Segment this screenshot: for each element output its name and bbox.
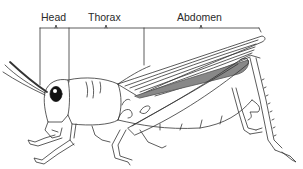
grasshopper-illustration [0, 0, 303, 169]
thorax-detail [118, 99, 150, 120]
wings [118, 36, 265, 98]
abdomen [118, 100, 260, 130]
compound-eye [50, 87, 62, 102]
front-legs [28, 126, 166, 165]
grasshopper-diagram: Head Thorax Abdomen [0, 0, 303, 169]
antennae [3, 62, 47, 95]
